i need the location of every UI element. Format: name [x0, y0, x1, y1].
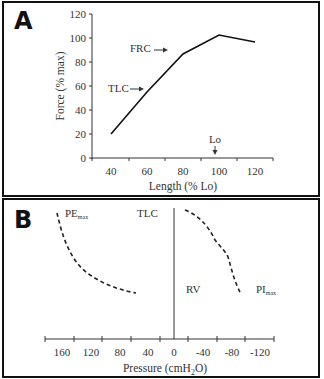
svg-text:80: 80 [115, 346, 127, 358]
svg-text:60: 60 [142, 165, 154, 177]
svg-text:120: 120 [247, 165, 264, 177]
panel-b-label: B [14, 206, 32, 234]
svg-text:40: 40 [143, 346, 155, 358]
svg-text:40: 40 [106, 165, 118, 177]
svg-text:60: 60 [75, 80, 87, 92]
panel-a-y-ticks: 120 100 80 60 40 20 0 [70, 8, 87, 164]
svg-text:0: 0 [171, 346, 177, 358]
tlc-label-b: TLC [137, 207, 158, 219]
svg-text:120: 120 [70, 8, 87, 20]
svg-text:100: 100 [70, 32, 87, 44]
panel-b-x-label: Pressure (cmH2O) [123, 362, 207, 377]
lo-annotation: Lo [209, 133, 222, 145]
svg-text:20: 20 [75, 128, 87, 140]
pimax-label: PImax [256, 283, 276, 296]
svg-text:120: 120 [83, 346, 100, 358]
svg-text:-80: -80 [225, 346, 240, 358]
panel-a-y-label: Force (% max) [54, 51, 67, 120]
svg-text:80: 80 [178, 165, 190, 177]
tlc-annotation: TLC [108, 82, 129, 94]
pemax-label: PEmax [65, 207, 88, 220]
svg-text:80: 80 [75, 56, 87, 68]
panel-b-x-axis [45, 336, 274, 342]
svg-text:100: 100 [211, 165, 228, 177]
svg-text:160: 160 [54, 346, 71, 358]
panel-a-label: A [14, 7, 33, 35]
panel-a-x-label: Length (% Lo) [149, 180, 218, 193]
panel-a-y-axis [89, 14, 92, 159]
figure-canvas: A 120 100 80 60 40 20 0 Force (% max) 40… [0, 0, 324, 379]
svg-text:-120: -120 [250, 346, 271, 358]
panel-a-x-ticks: 40 60 80 100 120 [106, 165, 264, 177]
svg-text:40: 40 [75, 104, 87, 116]
panel-a-x-axis [92, 158, 273, 161]
pimax-curve [185, 210, 240, 292]
svg-text:-40: -40 [196, 346, 211, 358]
lo-arrow-icon [213, 146, 218, 155]
tlc-arrow-icon [130, 87, 144, 92]
rv-label: RV [186, 283, 200, 295]
frc-annotation: FRC [130, 42, 151, 54]
pemax-curve [57, 213, 136, 293]
frc-arrow-icon [154, 48, 168, 53]
panel-b-x-ticks: 160 120 80 40 0 -40 -80 -120 [54, 346, 271, 358]
svg-text:0: 0 [81, 152, 87, 164]
